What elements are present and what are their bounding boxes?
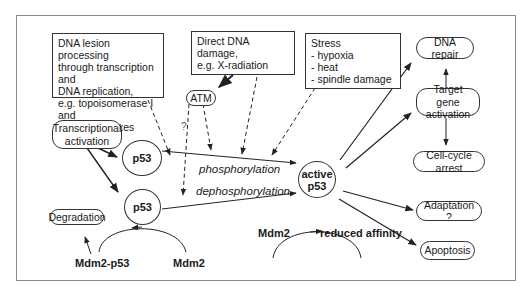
stress-box: Stress - hypoxia - heat - spindle damage — [305, 33, 401, 89]
dna-lesion-box: DNA lesion processing through transcript… — [52, 33, 164, 98]
phosphorylation-label: phosphorylation — [199, 163, 280, 175]
p53-node-bottom: p53 — [124, 189, 161, 225]
target-gene-activation-node: Target gene activation — [416, 88, 480, 116]
active-p53-node: active p53 — [298, 161, 336, 198]
degradation-node: Degradation — [50, 209, 104, 225]
reduced-affinity-label: reduced affinity — [320, 227, 402, 239]
dephosphorylation-label: dephosphorylation — [196, 185, 290, 197]
mdm2-left-label: Mdm2 — [173, 257, 205, 269]
adaptation-node: Adaptation ? — [416, 201, 482, 221]
mdm2-right-label: Mdm2 — [258, 227, 290, 239]
direct-dna-damage-box: Direct DNA damage, e.g. X-radiation — [191, 31, 295, 75]
apoptosis-node: Apoptosis — [420, 241, 475, 260]
cell-cycle-arrest-node: Cell-cycle arrest — [413, 151, 485, 172]
p53-node-top: p53 — [122, 140, 162, 176]
mdm2-p53-label: Mdm2-p53 — [75, 257, 129, 269]
question-mark-label: ? — [181, 121, 187, 132]
atm-node: ATM — [186, 90, 216, 106]
dna-repair-node: DNA repair — [416, 37, 474, 59]
transcriptional-activation-node: Transcriptional activation — [52, 120, 122, 149]
